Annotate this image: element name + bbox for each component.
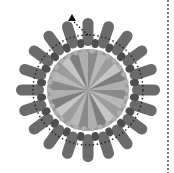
disc-rim-bump bbox=[54, 110, 59, 115]
disc-rim-bump bbox=[124, 79, 129, 84]
disc-rim-bump bbox=[98, 125, 103, 130]
outer-petal bbox=[83, 134, 94, 162]
arrowhead-icon bbox=[68, 14, 76, 21]
disc-rim-bump bbox=[47, 88, 52, 93]
disc-rim-bump bbox=[124, 96, 129, 101]
disc-rim-bump bbox=[112, 116, 117, 121]
outer-petal bbox=[16, 85, 44, 96]
disc-rim-bump bbox=[98, 50, 103, 55]
disc-rim-bump bbox=[50, 72, 55, 77]
outer-petal bbox=[132, 85, 160, 96]
disc-rim-bump bbox=[59, 116, 64, 121]
disc-rim-bump bbox=[59, 59, 64, 64]
disc-rim-bump bbox=[81, 49, 86, 54]
disc-rim-bump bbox=[105, 121, 110, 126]
radial-diagram bbox=[0, 0, 174, 173]
disc-rim-bump bbox=[90, 126, 95, 131]
disc-rim-bump bbox=[73, 50, 78, 55]
flower-diagram-svg bbox=[0, 0, 174, 173]
disc-rim-bump bbox=[66, 54, 71, 59]
disc-rim-bump bbox=[47, 79, 52, 84]
disc-rim-bump bbox=[105, 54, 110, 59]
disc-rim-bump bbox=[54, 65, 59, 70]
disc-rim-bump bbox=[90, 49, 95, 54]
disc-rim-bump bbox=[117, 110, 122, 115]
vertical-dotted-divider bbox=[167, 0, 169, 173]
disc-rim-bump bbox=[125, 88, 130, 93]
disc-rim-bump bbox=[81, 126, 86, 131]
disc-rim-bump bbox=[47, 96, 52, 101]
disc-rim-bump bbox=[121, 103, 126, 108]
disc-rim-bump bbox=[66, 121, 71, 126]
disc-rim-bump bbox=[117, 65, 122, 70]
disc-rim-bump bbox=[50, 103, 55, 108]
disc-rim-bump bbox=[112, 59, 117, 64]
disc-rim-bump bbox=[121, 72, 126, 77]
disc-rim-bump bbox=[73, 125, 78, 130]
